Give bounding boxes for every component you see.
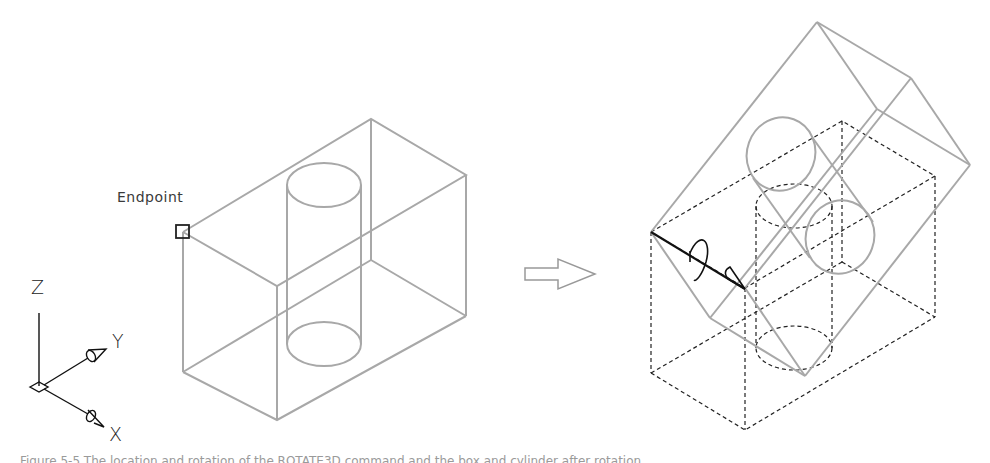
original-box-dashed xyxy=(651,121,935,430)
ucs-axis-icon xyxy=(30,313,106,427)
left-box xyxy=(183,119,466,420)
left-cylinder xyxy=(287,163,361,366)
rotated-box xyxy=(651,22,970,376)
figure-canvas xyxy=(0,0,990,463)
x-axis-label: X xyxy=(109,423,122,445)
figure-caption: Figure 5-5 The location and rotation of … xyxy=(20,451,980,463)
z-axis-label: Z xyxy=(31,276,44,298)
right-arrow-outline-icon xyxy=(525,259,595,289)
y-axis-label: Y xyxy=(112,330,124,352)
endpoint-label: Endpoint xyxy=(117,189,183,205)
